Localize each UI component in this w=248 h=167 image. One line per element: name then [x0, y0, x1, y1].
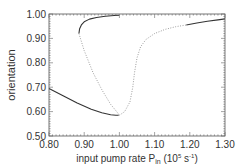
x-tick-label: 1.00 [110, 139, 130, 150]
y-tick-label: 1.00 [27, 9, 47, 20]
x-tick-label: 1.20 [180, 139, 200, 150]
x-tick-label: 1.10 [145, 139, 165, 150]
curve-solid-4 [186, 19, 225, 25]
x-tick-labels: 0.800.901.001.101.201.30 [39, 139, 235, 150]
y-tick-label: 0.80 [27, 57, 47, 68]
curve-solid-2 [49, 88, 119, 115]
y-axis-label: orientation [5, 49, 17, 100]
y-tick-label: 0.50 [27, 131, 47, 142]
y-tick-labels: 0.500.600.700.800.901.00 [27, 9, 47, 142]
curve-dotted-1 [79, 34, 119, 116]
curve-solid-0 [79, 15, 119, 33]
bifurcation-chart: 0.800.901.001.101.201.30 0.500.600.700.8… [0, 0, 248, 167]
y-tick-label: 0.90 [27, 33, 47, 44]
x-tick-label: 1.30 [215, 139, 235, 150]
plot-curves [49, 15, 225, 115]
curve-dotted-3 [119, 25, 186, 115]
x-axis-label: input pump rate Pin (105 s-1) [76, 153, 197, 165]
chart-svg: 0.800.901.001.101.201.30 0.500.600.700.8… [0, 0, 248, 167]
plot-frame [49, 14, 225, 136]
y-tick-label: 0.70 [27, 82, 47, 93]
axis-ticks [49, 14, 225, 136]
x-tick-label: 0.90 [74, 139, 94, 150]
y-tick-label: 0.60 [27, 106, 47, 117]
